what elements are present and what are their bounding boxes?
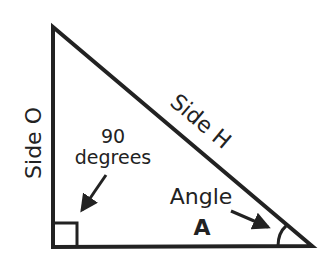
right-angle-arrow-icon [82,175,106,210]
side-h-label: Side H [166,89,237,154]
right-angle-unit-label: degrees [75,146,151,168]
angle-arc [278,226,286,246]
angle-label: Angle [170,184,233,209]
side-o-label: Side O [21,107,46,179]
triangle [53,27,312,247]
right-angle-marker [53,223,77,247]
angle-name-label: A [193,215,210,240]
right-angle-value-label: 90 [101,125,125,147]
angle-a-arrow-icon [231,211,268,227]
right-triangle-diagram: Side O Side H 90 degrees Angle A [0,0,331,272]
